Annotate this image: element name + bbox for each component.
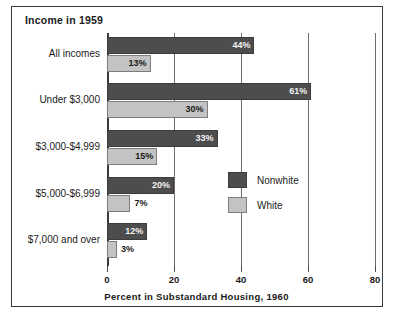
- bar-group: 44%13%: [107, 37, 375, 72]
- bar-value-label: 13%: [125, 55, 147, 72]
- chart-figure: Income in 1959 All incomesUnder $3,000$3…: [0, 0, 393, 317]
- bar-value-label: 7%: [134, 195, 147, 212]
- x-tick-label-80: 80: [370, 274, 381, 285]
- x-tick-80: [375, 266, 376, 272]
- plot-area: 44%13%61%30%33%15%20%7%12%3%: [107, 33, 375, 266]
- gridline-80: [375, 33, 376, 266]
- bar-value-label: 33%: [192, 130, 214, 147]
- bar-white-3: [107, 195, 130, 212]
- x-tick-label-60: 60: [303, 274, 314, 285]
- legend-label-white: White: [257, 200, 283, 211]
- legend-item-nonwhite: Nonwhite: [228, 172, 299, 188]
- bar-nonwhite-1: [107, 83, 311, 100]
- bar-value-label: 12%: [121, 223, 143, 240]
- category-label: $3,000-$4,999: [35, 141, 100, 152]
- x-tick-40: [241, 266, 242, 272]
- category-label: All incomes: [49, 48, 100, 59]
- category-label: Under $3,000: [39, 94, 100, 105]
- legend-label-nonwhite: Nonwhite: [257, 175, 299, 186]
- bar-group: 12%3%: [107, 223, 375, 258]
- bar-value-label: 15%: [131, 148, 153, 165]
- bar-white-4: [107, 241, 117, 258]
- bar-value-label: 3%: [121, 241, 134, 258]
- x-axis-tick-labels: 020406080: [0, 274, 393, 288]
- bar-group: 33%15%: [107, 130, 375, 165]
- category-label: $5,000-$6,999: [35, 188, 100, 199]
- x-tick-60: [308, 266, 309, 272]
- legend-item-white: White: [228, 197, 299, 213]
- bar-value-label: 20%: [148, 177, 170, 194]
- x-tick-label-40: 40: [236, 274, 247, 285]
- bar-value-label: 44%: [228, 37, 250, 54]
- x-axis-title: Percent in Substandard Housing, 1960: [0, 291, 393, 302]
- legend-swatch-nonwhite-icon: [228, 172, 247, 188]
- x-tick-0: [107, 266, 108, 272]
- bar-value-label: 30%: [182, 101, 204, 118]
- bar-value-label: 61%: [285, 83, 307, 100]
- bar-group: 61%30%: [107, 83, 375, 118]
- x-tick-20: [174, 266, 175, 272]
- chart-legend: Nonwhite White: [228, 172, 299, 222]
- legend-swatch-white-icon: [228, 197, 247, 213]
- x-tick-label-20: 20: [169, 274, 180, 285]
- x-tick-label-0: 0: [104, 274, 109, 285]
- chart-title: Income in 1959: [25, 14, 103, 26]
- category-label: $7,000 and over: [28, 234, 100, 245]
- category-axis: All incomesUnder $3,000$3,000-$4,999$5,0…: [0, 33, 100, 266]
